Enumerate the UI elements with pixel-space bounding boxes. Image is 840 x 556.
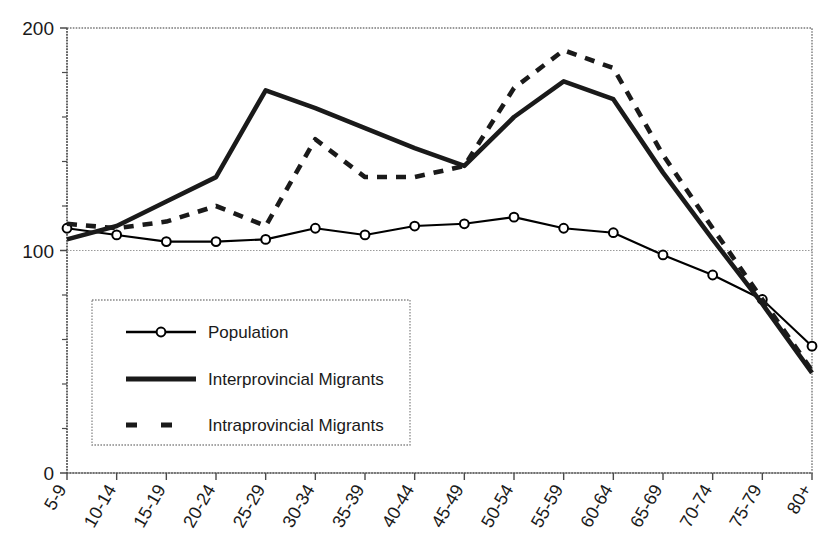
x-axis-tick-label: 35-39 <box>328 481 368 531</box>
x-axis-tick-label: 45-49 <box>427 481 467 531</box>
x-axis-tick-label: 40-44 <box>378 481 418 531</box>
line-chart: 0100200 5-910-1415-1920-2425-2930-3435-3… <box>0 0 840 556</box>
legend-swatch-marker <box>157 328 166 337</box>
data-point-marker <box>261 235 270 244</box>
legend-label: Interprovincial Migrants <box>208 370 384 389</box>
x-axis-labels: 5-910-1415-1920-2425-2930-3435-3940-4445… <box>40 481 815 531</box>
x-axis-tick-label: 55-59 <box>527 481 567 531</box>
x-axis-tick-label: 70-74 <box>676 481 716 531</box>
data-point-marker <box>510 213 519 222</box>
x-axis-tick-label: 25-29 <box>229 481 269 531</box>
data-point-marker <box>708 271 717 280</box>
x-axis-tick-label: 75-79 <box>725 481 765 531</box>
data-point-marker <box>460 219 469 228</box>
data-point-marker <box>808 342 817 351</box>
data-point-marker <box>609 228 618 237</box>
y-axis-tick-label: 100 <box>22 241 54 262</box>
x-axis-tick-label: 5-9 <box>40 481 70 514</box>
x-axis-ticks <box>67 473 812 480</box>
y-axis-tick-label: 200 <box>22 18 54 39</box>
y-axis-labels: 0100200 <box>22 18 54 484</box>
data-point-marker <box>162 237 171 246</box>
x-axis-tick-label: 10-14 <box>80 481 120 531</box>
data-point-marker <box>112 231 121 240</box>
legend-label: Intraprovincial Migrants <box>208 416 384 435</box>
data-point-marker <box>559 224 568 233</box>
data-point-marker <box>659 251 668 260</box>
x-axis-tick-label: 30-34 <box>278 481 318 531</box>
data-point-marker <box>361 231 370 240</box>
data-point-marker <box>410 222 419 231</box>
x-axis-tick-label: 20-24 <box>179 481 219 531</box>
data-point-marker <box>212 237 221 246</box>
x-axis-tick-label: 65-69 <box>626 481 666 531</box>
x-axis-tick-label: 60-64 <box>576 481 616 531</box>
y-axis-ticks <box>60 28 67 473</box>
x-axis-tick-label: 80+ <box>783 481 816 517</box>
chart-container: 0100200 5-910-1415-1920-2425-2930-3435-3… <box>0 0 840 556</box>
x-axis-tick-label: 50-54 <box>477 481 517 531</box>
x-axis-tick-label: 15-19 <box>129 481 169 531</box>
legend-label: Population <box>208 323 288 342</box>
chart-legend: PopulationInterprovincial MigrantsIntrap… <box>92 300 410 445</box>
data-point-marker <box>311 224 320 233</box>
